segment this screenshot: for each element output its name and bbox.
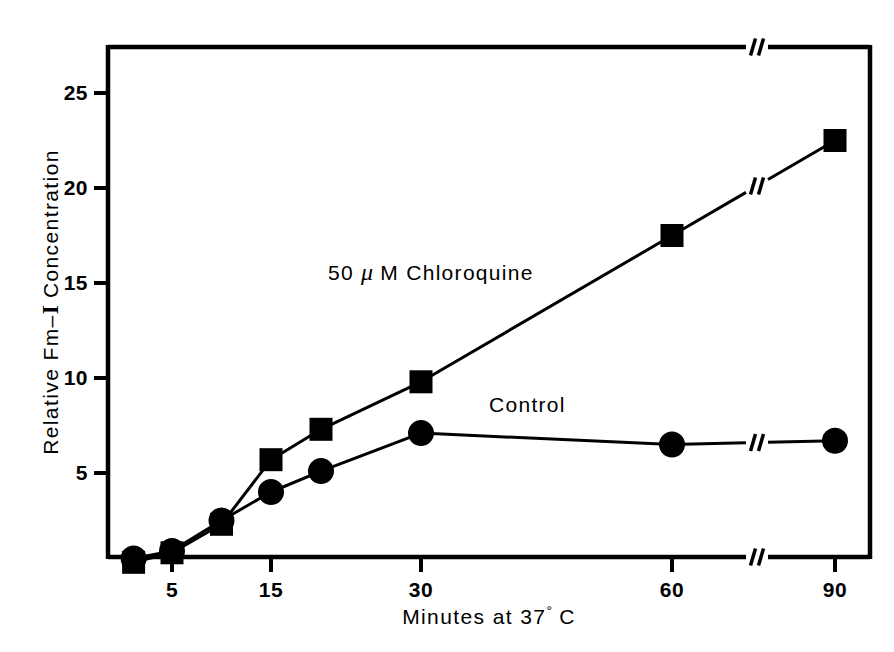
- series-label-control: Control: [489, 393, 566, 417]
- series-line-break-slash-2: [759, 434, 764, 451]
- figure-container: 5 10 15 20 25 5 15 30 60 90 Relative Fm–…: [0, 0, 894, 652]
- axis-frame: [108, 39, 870, 566]
- data-point-marker-square: [662, 225, 683, 246]
- axis-break-bottom-slash-1: [751, 549, 756, 566]
- series-line-break-slash-1: [751, 177, 756, 194]
- data-point-marker-circle: [210, 509, 234, 533]
- data-point-marker-square: [411, 371, 432, 392]
- axis-break-bottom-slash-2: [759, 549, 764, 566]
- y-axis-title: Relative Fm–I Concentration: [34, 47, 68, 557]
- data-point-marker-circle: [660, 433, 684, 457]
- axis-break-top-slash-2: [759, 39, 764, 56]
- data-point-marker-square: [825, 130, 846, 151]
- y-axis-title-prefix: Relative Fm: [39, 327, 62, 454]
- y-axis-title-dash: –: [39, 314, 62, 327]
- y-axis-title-suffix: Concentration: [39, 149, 62, 305]
- x-axis-title-prefix: Minutes at 37: [402, 605, 546, 628]
- series-control: [122, 421, 847, 570]
- data-series: [122, 130, 847, 573]
- data-point-marker-circle: [160, 539, 184, 563]
- series-chloroquine: [123, 130, 845, 573]
- x-tick-label-30: 30: [409, 578, 433, 602]
- x-axis-title-suffix: C: [552, 605, 576, 628]
- data-point-marker-square: [261, 449, 282, 470]
- chloroquine-name: M Chloroquine: [373, 261, 534, 284]
- series-line-break-slash-1: [751, 434, 756, 451]
- mu-symbol: μ: [361, 259, 373, 285]
- y-axis-title-iodine: I: [38, 305, 63, 314]
- series-segment: [321, 433, 421, 471]
- series-line-break-slash-2: [759, 177, 764, 194]
- series-segment: [421, 433, 672, 444]
- x-tick-label-5: 5: [166, 578, 178, 602]
- data-point-marker-circle: [122, 547, 146, 571]
- axis-break-top-slash-1: [751, 39, 756, 56]
- chloroquine-label-leader: [596, 248, 640, 292]
- plot-canvas: [0, 0, 894, 652]
- series-segment: [321, 382, 421, 430]
- series-segment: [421, 236, 672, 382]
- x-tick-label-15: 15: [259, 578, 283, 602]
- data-point-marker-circle: [409, 421, 433, 445]
- data-point-marker-circle: [823, 429, 847, 453]
- chloroquine-concentration-value: 50: [328, 261, 361, 284]
- x-tick-label-60: 60: [660, 578, 684, 602]
- data-point-marker-circle: [259, 480, 283, 504]
- data-point-marker-square: [311, 419, 332, 440]
- series-label-chloroquine: 50 μ M Chloroquine: [328, 259, 534, 286]
- data-point-marker-circle: [309, 459, 333, 483]
- x-axis-title: Minutes at 37° C: [108, 603, 870, 629]
- axis-ticks: [94, 93, 835, 572]
- x-tick-label-90: 90: [823, 578, 847, 602]
